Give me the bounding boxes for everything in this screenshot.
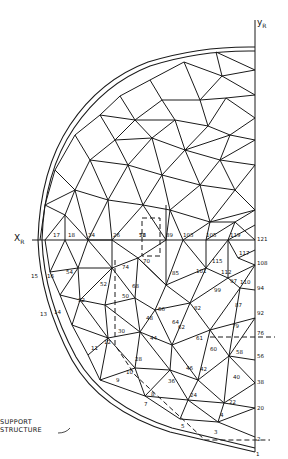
node-label: 94 [257,286,264,292]
node-label: 108 [257,261,268,267]
node-label: 121 [257,237,268,243]
node-label: 87 [235,303,242,309]
node-label: 112 [221,270,232,276]
node-label: 61 [196,336,203,342]
node-label: 12 [104,340,111,346]
node-label: 7 [144,402,148,408]
node-label: 101 [196,269,207,275]
node-label: 79 [232,324,239,330]
node-label: 8 [151,392,155,398]
node-label: 20 [257,406,264,412]
node-label: 54 [66,270,73,276]
node-label: 66 [158,307,165,313]
node-label: 14 [54,310,61,316]
node-label: 4 [220,413,224,419]
x-axis-label: XR [14,234,24,245]
node-label: 28 [135,357,142,363]
node-label: 11 [91,346,98,352]
node-label: 74 [122,265,129,271]
outer-rim [38,47,255,452]
node-label: 1 [256,452,260,458]
node-label: 82 [194,306,201,312]
node-label: 70 [143,259,150,265]
node-label: 89 [166,233,173,239]
node-label: 103 [183,233,194,239]
node-label: 110 [240,280,251,286]
node-label: 3 [214,430,218,436]
node-label: 115 [212,259,223,265]
support-leader-line [58,428,70,433]
node-label: 38 [257,380,264,386]
node-label: 105 [206,233,217,239]
node-label: 58 [236,350,243,356]
node-label: 17 [53,233,60,239]
node-label: 92 [257,311,264,317]
node-label: 10 [126,370,133,376]
node-label: 5 [181,424,185,430]
node-label: 40 [233,375,240,381]
node-label: 117 [239,251,250,257]
node-label: 48 [146,316,153,322]
y-axis-label: yR [257,18,267,29]
node-label: 9 [116,378,120,384]
node-label: 26 [113,233,120,239]
node-label: 36 [168,379,175,385]
node-label: 50 [122,294,129,300]
node-label: 76 [257,331,264,337]
node-label: 34 [88,233,95,239]
support-structure-label: SUPPORT STRUCTURE [0,418,42,434]
node-label: 72 [139,233,146,239]
node-label: 60 [210,347,217,353]
node-label: 85 [172,271,179,277]
node-label: 46 [186,366,193,372]
node-label: 97 [230,279,237,285]
node-label: 44 [150,336,157,342]
node-label: 52 [100,282,107,288]
node-label: 64 [172,320,179,326]
node-label: 24 [190,393,197,399]
node-label: 99 [214,288,221,294]
dome-mesh-diagram [0,0,288,459]
node-label: 16 [47,274,54,280]
node-label: 15 [31,274,38,280]
node-label: 18 [68,233,75,239]
node-label: 13 [40,312,47,318]
node-label: 30 [118,329,125,335]
node-label: 2 [257,437,261,443]
node-label: 68 [132,284,139,290]
node-label: 119 [230,233,241,239]
node-label: 62 [178,325,185,331]
node-label: 32 [78,298,85,304]
mesh-members [40,52,255,437]
node-label: 22 [229,400,236,406]
node-label: 42 [200,367,207,373]
node-label: 56 [257,354,264,360]
